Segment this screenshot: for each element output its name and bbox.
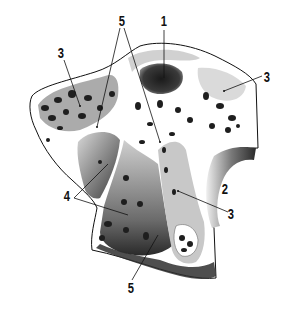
label-3-lower: 3 xyxy=(228,207,234,221)
label-5-top: 5 xyxy=(119,14,125,28)
label-4: 4 xyxy=(64,189,70,203)
label-3-right: 3 xyxy=(264,70,270,84)
bone-section-illustration xyxy=(0,0,288,311)
label-1: 1 xyxy=(161,14,167,28)
label-2: 2 xyxy=(222,182,228,196)
label-3-left: 3 xyxy=(58,46,64,60)
label-5-bottom: 5 xyxy=(128,281,134,295)
